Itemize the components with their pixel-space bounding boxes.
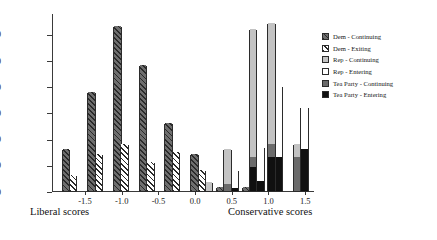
legend-swatch-icon xyxy=(322,45,329,52)
bar-segment-rep_ent xyxy=(257,147,263,181)
y-tick-label: 60 xyxy=(0,30,1,39)
chart-figure: 0102030405060 -1.5-1.0-0.50.00.51.01.5 L… xyxy=(0,0,437,240)
y-tick-label: 10 xyxy=(0,161,1,170)
chart-legend: Dem - ContinuingDem - ExitingRep - Conti… xyxy=(322,31,435,101)
bar-rep_ent xyxy=(275,87,283,192)
legend-item: Tea Party - Continuing xyxy=(322,77,435,89)
x-tick-label: -1.0 xyxy=(102,197,142,206)
bar-segment-rep_ent xyxy=(232,170,238,188)
bar-segment-tp_ent xyxy=(276,157,282,191)
y-tick-label: 30 xyxy=(0,109,1,118)
bar-dem_exit xyxy=(172,153,180,192)
legend-item-label: Tea Party - Continuing xyxy=(333,80,393,87)
x-tick-label: -1.5 xyxy=(65,197,105,206)
bar-segment-dem_exit xyxy=(70,175,76,191)
x-tick-label: 1.5 xyxy=(285,197,325,206)
bar-dem_exit xyxy=(95,155,103,192)
y-tick-mark xyxy=(47,35,52,36)
x-axis-label-right: Conservative scores xyxy=(228,206,312,217)
x-axis-label-left: Liberal scores xyxy=(30,206,89,217)
bar-segment-tp_ent xyxy=(301,149,307,191)
bar-dem_exit xyxy=(146,163,154,192)
y-tick-label: 20 xyxy=(0,135,1,144)
y-tick-label: 0 xyxy=(0,188,1,197)
y-tick-mark xyxy=(47,61,52,62)
x-tick-label: 0.5 xyxy=(212,197,252,206)
x-tick-mark xyxy=(158,191,159,195)
bar-segment-dem_exit xyxy=(96,154,102,191)
legend-item: Dem - Continuing xyxy=(322,31,435,43)
legend-item: Rep - Continuing xyxy=(322,54,435,66)
legend-swatch-icon xyxy=(322,80,329,87)
plot-area: 0102030405060 -1.5-1.0-0.50.00.51.01.5 xyxy=(52,14,314,192)
y-tick-mark xyxy=(47,113,52,114)
legend-swatch-icon xyxy=(322,56,329,63)
bar-segment-rep_cont xyxy=(250,29,256,157)
bar-segment-tp_ent xyxy=(232,188,238,191)
legend-swatch-icon xyxy=(322,68,329,75)
x-tick-label: -0.5 xyxy=(138,197,178,206)
bar-rep_ent xyxy=(231,171,239,192)
y-tick-mark xyxy=(47,140,52,141)
legend-item-label: Dem - Exiting xyxy=(333,45,371,52)
bar-rep_cont xyxy=(205,183,213,192)
bar-segment-tp_ent xyxy=(257,181,263,191)
y-tick-mark xyxy=(47,192,52,193)
x-tick-label: 1.0 xyxy=(248,197,288,206)
y-tick-mark xyxy=(47,87,52,88)
x-tick-label: 0.0 xyxy=(175,197,215,206)
legend-item: Rep - Entering xyxy=(322,66,435,78)
bar-segment-rep_ent xyxy=(276,86,282,157)
legend-item-label: Tea Party - Entering xyxy=(333,91,386,98)
bar-segment-rep_cont xyxy=(206,182,212,191)
legend-item-label: Rep - Entering xyxy=(333,68,372,75)
bar-segment-dem_exit xyxy=(121,144,127,191)
bar-dem_exit xyxy=(120,145,128,192)
y-tick-label: 50 xyxy=(0,57,1,66)
bar-segment-dem_exit xyxy=(147,162,153,191)
bar-segment-rep_ent xyxy=(301,107,307,149)
legend-item: Tea Party - Entering xyxy=(322,89,435,101)
legend-item-label: Rep - Continuing xyxy=(333,56,379,63)
legend-item: Dem - Exiting xyxy=(322,43,435,55)
legend-swatch-icon xyxy=(322,91,329,98)
bar-rep_ent xyxy=(300,108,308,192)
bar-segment-dem_exit xyxy=(173,152,179,191)
legend-swatch-icon xyxy=(322,33,329,40)
y-tick-label: 40 xyxy=(0,83,1,92)
y-axis-line xyxy=(52,14,53,192)
bar-dem_exit xyxy=(69,176,77,192)
bar-rep_ent xyxy=(256,148,264,193)
legend-item-label: Dem - Continuing xyxy=(333,33,381,40)
x-tick-mark xyxy=(85,191,86,195)
y-tick-mark xyxy=(47,166,52,167)
